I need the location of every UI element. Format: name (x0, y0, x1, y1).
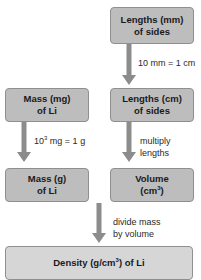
node-lengths-cm-line2: of sides (122, 105, 182, 117)
arrow-head (17, 152, 31, 162)
edge-label-cm-to-volume-line1: multiply (140, 136, 171, 148)
edge-label-to-density-line2: by volume (113, 229, 161, 241)
arrow-shaft (97, 203, 102, 235)
node-volume-unit-base: (cm (140, 185, 157, 196)
arrow-shaft (22, 122, 27, 154)
node-mass-mg-line1: Mass (mg) (24, 93, 71, 105)
node-lengths-mm-line2: of sides (121, 26, 184, 38)
node-volume-unit-end: ) (161, 185, 164, 196)
arrow-cm-to-volume (121, 122, 137, 163)
edge-label-mm-to-cm: 10 mm = 1 cm (138, 58, 195, 70)
node-mass-mg-line2: of Li (24, 105, 71, 117)
node-mass-g: Mass (g) of Li (5, 168, 89, 202)
node-lengths-cm: Lengths (cm) of sides (110, 88, 194, 122)
arrow-head (122, 75, 136, 85)
node-volume: Volume (cm3) (110, 168, 194, 202)
node-mass-g-line2: of Li (28, 185, 67, 197)
node-mass-mg: Mass (mg) of Li (5, 88, 89, 122)
arrow-shaft (127, 44, 132, 77)
node-density-end: ) of Li (119, 257, 145, 268)
arrow-head (92, 233, 106, 243)
node-density-label: Density (g/cm3) of Li (53, 257, 145, 269)
arrow-shaft (127, 122, 132, 154)
arrow-mm-to-cm (121, 44, 137, 86)
node-volume-line1: Volume (135, 173, 169, 185)
arrow-head (122, 152, 136, 162)
edge-label-mg-to-g-end: mg = 1 g (47, 136, 85, 146)
edge-label-to-density-line1: divide mass (113, 217, 161, 229)
node-mass-g-line1: Mass (g) (28, 173, 67, 185)
node-lengths-cm-line1: Lengths (cm) (122, 93, 182, 105)
node-density-base: Density (g/cm (53, 257, 115, 268)
node-volume-line2: (cm3) (135, 185, 169, 197)
node-density: Density (g/cm3) of Li (5, 246, 193, 280)
edge-label-cm-to-volume: multiply lengths (140, 136, 171, 159)
edge-label-mg-to-g-base: 10 (34, 136, 44, 146)
node-lengths-mm-line1: Lengths (mm) (121, 14, 184, 26)
edge-label-mg-to-g: 103 mg = 1 g (34, 136, 85, 148)
arrow-to-density (91, 203, 107, 244)
arrow-mg-to-g (16, 122, 32, 163)
edge-label-cm-to-volume-line2: lengths (140, 148, 171, 160)
edge-label-to-density: divide mass by volume (113, 217, 161, 240)
node-lengths-mm: Lengths (mm) of sides (110, 7, 194, 44)
